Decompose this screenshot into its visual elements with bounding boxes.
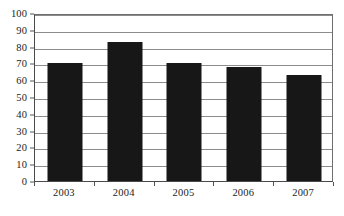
x-axis-tick-mark bbox=[34, 182, 35, 186]
y-axis-tick-label: 0 bbox=[22, 177, 27, 188]
bar-group bbox=[155, 15, 215, 181]
y-axis: 0102030405060708090100 bbox=[0, 0, 34, 216]
y-axis-tick-label: 60 bbox=[16, 76, 27, 87]
x-axis: 20032004200520062007 bbox=[34, 188, 333, 208]
bar-2006 bbox=[227, 67, 262, 181]
x-axis-tick-mark bbox=[213, 182, 214, 186]
y-axis-tick-label: 10 bbox=[16, 160, 27, 171]
bar-group bbox=[95, 15, 155, 181]
x-axis-tick-label: 2004 bbox=[113, 188, 135, 199]
bar-2005 bbox=[167, 63, 202, 181]
x-axis-tick-mark bbox=[333, 182, 334, 186]
bar-group bbox=[214, 15, 274, 181]
y-axis-tick-label: 20 bbox=[16, 143, 27, 154]
x-axis-tick-label: 2003 bbox=[53, 188, 75, 199]
plot-area bbox=[34, 14, 333, 182]
x-axis-tick-mark bbox=[273, 182, 274, 186]
x-axis-tick-label: 2005 bbox=[173, 188, 195, 199]
bar-group bbox=[274, 15, 334, 181]
y-axis-tick-label: 80 bbox=[16, 42, 27, 53]
bars-layer bbox=[35, 15, 332, 181]
y-axis-tick-label: 40 bbox=[16, 110, 27, 121]
x-axis-tick-label: 2007 bbox=[292, 188, 314, 199]
x-axis-tick-mark bbox=[94, 182, 95, 186]
y-axis-tick-label: 30 bbox=[16, 126, 27, 137]
x-axis-tick-label: 2006 bbox=[232, 188, 254, 199]
bar-2007 bbox=[287, 75, 322, 181]
y-axis-tick-label: 100 bbox=[11, 9, 27, 20]
bar-2003 bbox=[47, 63, 82, 181]
y-axis-tick-label: 90 bbox=[16, 26, 27, 37]
y-axis-tick-label: 70 bbox=[16, 59, 27, 70]
bar-group bbox=[35, 15, 95, 181]
bar-2004 bbox=[107, 42, 142, 181]
x-axis-tick-mark bbox=[154, 182, 155, 186]
bar-chart: 0102030405060708090100 20032004200520062… bbox=[0, 0, 344, 216]
y-axis-tick-label: 50 bbox=[16, 93, 27, 104]
